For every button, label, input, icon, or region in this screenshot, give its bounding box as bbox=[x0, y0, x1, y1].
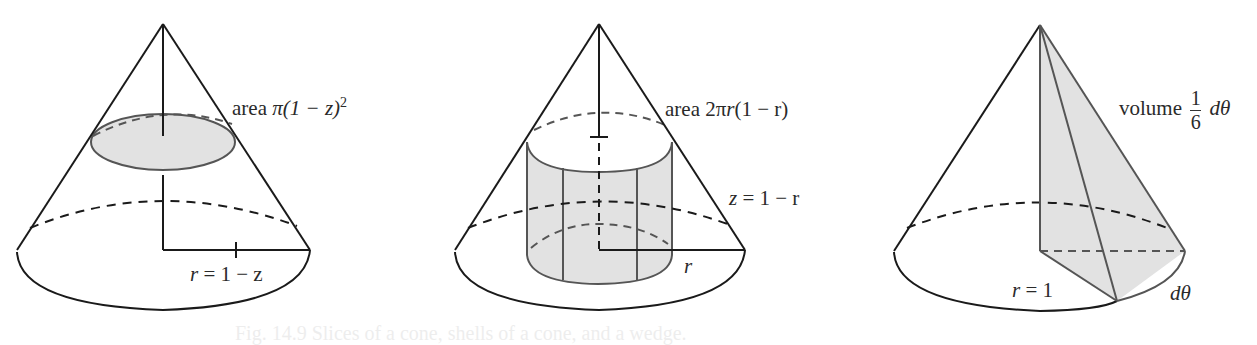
cone-slices-figure bbox=[17, 24, 310, 310]
height-expression: = 1 − r bbox=[742, 186, 799, 210]
radius-expression: = 1 bbox=[1025, 278, 1053, 302]
area-prefix: 2π bbox=[705, 97, 726, 121]
shell-area-label: area 2πr(1 − r) bbox=[665, 99, 788, 120]
volume-word: volume bbox=[1119, 96, 1182, 120]
slice-radius-label: r = 1 − z bbox=[190, 264, 263, 285]
area-var: r bbox=[726, 97, 734, 121]
radius-var: r bbox=[1012, 278, 1020, 302]
area-exponent: 2 bbox=[340, 95, 347, 110]
wedge-volume-label: volume 1 6 dθ bbox=[1119, 88, 1230, 133]
fraction-numerator: 1 bbox=[1190, 88, 1201, 109]
shell-height-label: z = 1 − r bbox=[729, 188, 799, 209]
area-word: area bbox=[665, 97, 700, 121]
base-front bbox=[17, 250, 310, 310]
cone-left-side bbox=[894, 25, 1040, 251]
dtheta: dθ bbox=[1210, 96, 1231, 120]
wedge-shaded bbox=[1040, 25, 1185, 301]
wedge-radius-label: r = 1 bbox=[1012, 280, 1053, 301]
area-word: area bbox=[232, 96, 267, 120]
figure-caption: Fig. 14.9 Slices of a cone, shells of a … bbox=[235, 322, 687, 345]
cone-wedge-figure bbox=[894, 25, 1185, 311]
fraction-denominator: 6 bbox=[1190, 112, 1201, 133]
shell-radius-label: r bbox=[684, 256, 692, 277]
area-suffix: (1 − r) bbox=[735, 97, 789, 121]
cone-shells-figure bbox=[455, 24, 745, 310]
height-var: z bbox=[729, 186, 737, 210]
fraction: 1 6 bbox=[1190, 88, 1201, 133]
slice-area-label: area π(1 − z)2 bbox=[232, 96, 347, 119]
radius-var: r bbox=[190, 262, 198, 286]
area-expression: π(1 − z) bbox=[272, 96, 340, 120]
wedge-arc-label: dθ bbox=[1170, 283, 1191, 304]
radius-expression: = 1 − z bbox=[203, 262, 262, 286]
